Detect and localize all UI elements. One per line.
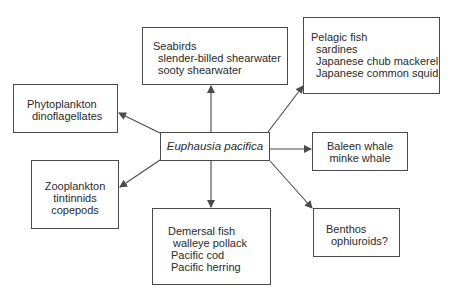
arrow-to-phyto xyxy=(119,113,160,133)
node-demersal-fish: Demersal fish walleye pollack Pacific co… xyxy=(152,208,271,285)
node-item: Japanese chub mackerel xyxy=(311,55,439,67)
node-title: Baleen whale xyxy=(313,140,407,152)
node-item: slender-billed shearwater xyxy=(153,52,287,64)
arrow-to-pelagic xyxy=(268,86,303,132)
node-zooplankton: Zooplankton tintinnids copepods xyxy=(31,160,119,229)
node-title: Demersal fish xyxy=(168,225,270,237)
arrow-to-zoo xyxy=(120,160,160,187)
node-item: ophiuroids? xyxy=(326,235,399,247)
node-item: minke whale xyxy=(313,152,407,164)
node-title: Benthos xyxy=(326,223,399,235)
node-title: Pelagic fish xyxy=(311,31,439,43)
node-item: dinoflagellates xyxy=(27,110,117,122)
node-baleen-whale: Baleen whale minke whale xyxy=(312,132,408,171)
node-item: sooty shearwater xyxy=(153,64,287,76)
node-item: tintinnids xyxy=(32,192,118,204)
node-item: walleye pollack xyxy=(168,237,270,249)
node-item: Pacific cod xyxy=(168,249,270,261)
node-item: sardines xyxy=(311,43,439,55)
arrow-to-benthos xyxy=(270,161,312,208)
node-title: Phytoplankton xyxy=(27,98,117,110)
center-node-euphausia: Euphausia pacifica xyxy=(160,132,270,161)
node-phytoplankton: Phytoplankton dinoflagellates xyxy=(13,84,118,133)
node-seabirds: Seabirds slender-billed shearwater sooty… xyxy=(142,27,288,85)
node-title: Zooplankton xyxy=(32,180,118,192)
node-item: Japanese common squid xyxy=(311,67,439,79)
node-pelagic-fish: Pelagic fish sardines Japanese chub mack… xyxy=(303,17,440,94)
center-label: Euphausia pacifica xyxy=(161,133,269,160)
node-item: copepods xyxy=(32,204,118,216)
node-title: Seabirds xyxy=(153,40,287,52)
node-benthos: Benthos ophiuroids? xyxy=(313,208,400,257)
node-item: Pacific herring xyxy=(168,261,270,273)
